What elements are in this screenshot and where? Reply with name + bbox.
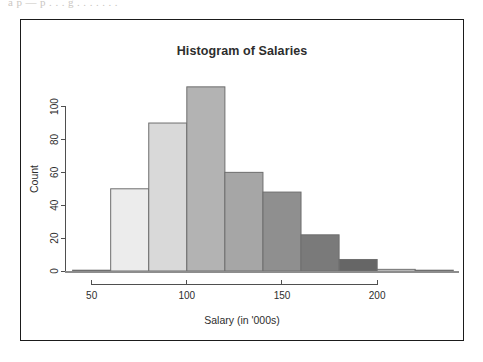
figure-frame: Histogram of Salaries 020406080100 Count…	[20, 19, 464, 341]
x-tick-label: 200	[369, 290, 386, 301]
y-tick-label: 80	[49, 133, 60, 145]
y-axis-line	[61, 107, 66, 271]
figure-page: a p — p . . . g . . . . . . . Histogram …	[0, 0, 483, 362]
x-tick-label: 100	[178, 290, 195, 301]
histogram-bar	[225, 172, 263, 271]
y-axis-title: Count	[28, 165, 40, 193]
histogram-bar	[187, 87, 225, 271]
chart-title: Histogram of Salaries	[177, 44, 308, 58]
x-tick-label: 150	[274, 290, 291, 301]
histogram-bar	[301, 235, 339, 271]
bar-series	[73, 87, 454, 271]
histogram-bar	[263, 192, 301, 271]
histogram-bar	[339, 259, 377, 271]
y-tick-label: 40	[49, 199, 60, 211]
x-tick-label: 50	[86, 290, 98, 301]
y-tick-label: 0	[49, 268, 60, 274]
scan-artifact-text: a p — p . . . g . . . . . . .	[8, 0, 308, 10]
y-tick-label: 20	[49, 232, 60, 244]
x-axis-line	[92, 280, 378, 285]
y-tick-label: 60	[49, 166, 60, 178]
x-axis: 50100150200	[86, 280, 386, 301]
y-tick-label: 100	[49, 98, 60, 115]
x-axis-title: Salary (in '000s)	[204, 314, 280, 326]
histogram-plot: Histogram of Salaries 020406080100 Count…	[21, 20, 463, 340]
histogram-bar	[149, 123, 187, 271]
histogram-bar	[111, 189, 149, 271]
y-axis: 020406080100	[49, 98, 66, 274]
